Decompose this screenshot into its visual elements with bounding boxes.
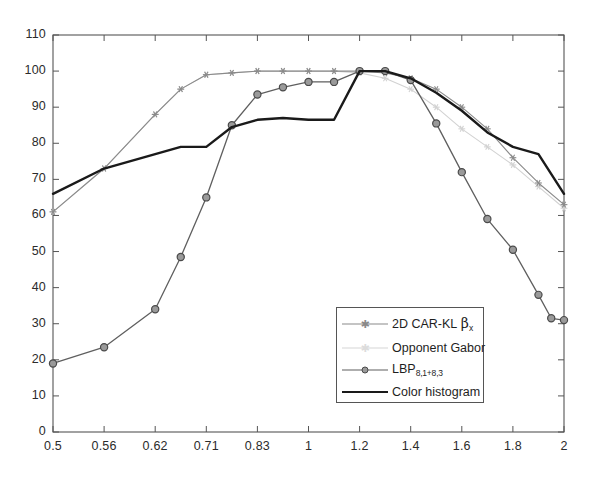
legend-label-car-kl-text: 2D CAR-KL bbox=[392, 317, 457, 331]
y-tick-label: 70 bbox=[6, 171, 46, 185]
data-series-layer bbox=[49, 67, 567, 367]
beta-symbol: β bbox=[461, 315, 469, 331]
star-marker-icon-faint: ✱ bbox=[360, 343, 369, 354]
circle-marker-icon bbox=[362, 367, 369, 374]
legend-item-car-kl: ✱ 2D CAR-KL βx bbox=[337, 312, 483, 336]
legend-swatch-lbp bbox=[342, 363, 388, 377]
beta-subscript: x bbox=[469, 323, 473, 333]
y-tick-label: 10 bbox=[6, 388, 46, 402]
chart-legend: ✱ 2D CAR-KL βx ✱ Opponent Gabor LBP8,1+8… bbox=[336, 307, 484, 403]
y-tick-label: 50 bbox=[6, 244, 46, 258]
axes-frame bbox=[53, 35, 564, 432]
chart-plot-area bbox=[0, 0, 596, 477]
y-tick-label: 0 bbox=[6, 424, 46, 438]
y-tick-label: 30 bbox=[6, 316, 46, 330]
legend-label-car-kl: 2D CAR-KL βx bbox=[392, 316, 473, 333]
series-color_histogram bbox=[53, 71, 564, 194]
y-tick-label: 110 bbox=[6, 27, 46, 41]
axis-ticks bbox=[53, 35, 564, 432]
y-tick-label: 60 bbox=[6, 207, 46, 221]
legend-label-color-histogram: Color histogram bbox=[392, 386, 480, 399]
series-lbp bbox=[49, 67, 567, 367]
y-tick-label: 40 bbox=[6, 280, 46, 294]
y-tick-label: 90 bbox=[6, 99, 46, 113]
legend-swatch-opponent-gabor: ✱ bbox=[342, 341, 388, 355]
series-opponent_gabor bbox=[50, 68, 568, 215]
y-tick-label: 100 bbox=[6, 63, 46, 77]
legend-item-lbp: LBP8,1+8,3 bbox=[337, 358, 483, 382]
y-tick-label: 80 bbox=[6, 135, 46, 149]
series-car_kl bbox=[50, 68, 568, 215]
legend-item-color-histogram: Color histogram bbox=[337, 380, 483, 404]
lbp-subscript: 8,1+8,3 bbox=[416, 368, 443, 378]
legend-item-opponent-gabor: ✱ Opponent Gabor bbox=[337, 336, 483, 360]
figure-canvas: 0102030405060708090100110 0.50.560.620.7… bbox=[0, 0, 596, 477]
x-tick-label: 2 bbox=[534, 439, 594, 453]
legend-label-opponent-gabor: Opponent Gabor bbox=[392, 342, 485, 355]
y-tick-label: 20 bbox=[6, 352, 46, 366]
star-marker-icon: ✱ bbox=[360, 319, 369, 330]
legend-label-lbp-text: LBP bbox=[392, 362, 416, 376]
legend-swatch-color-histogram bbox=[342, 385, 388, 399]
legend-swatch-car-kl: ✱ bbox=[342, 317, 388, 331]
legend-label-lbp: LBP8,1+8,3 bbox=[392, 363, 443, 378]
